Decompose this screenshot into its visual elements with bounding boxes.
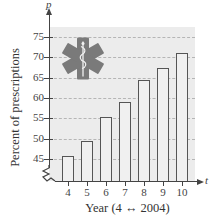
x-axis-variable: t [205,174,208,186]
bar-6 [100,117,112,181]
y-tick-label: 65 [24,72,44,83]
x-tick-label: 9 [153,187,173,198]
y-axis-variable: p [46,0,52,10]
y-tick-label: 70 [24,51,44,62]
y-axis [49,12,50,168]
y-axis-label: Percent of prescriptions [8,43,23,173]
x-axis-arrow-icon [197,179,204,185]
y-tick-label: 45 [24,153,44,164]
y-tick-label: 75 [24,31,44,42]
y-tick-label: 50 [24,133,44,144]
x-tick-label: 7 [115,187,135,198]
x-axis-label: Year (4 ↔ 2004) [55,201,200,216]
x-tick-label: 4 [58,187,78,198]
x-tick-label: 8 [134,187,154,198]
star-of-life-icon [62,37,104,80]
bar-5 [81,141,93,181]
gridline [49,98,195,99]
bar-chart: 45505560657075 p t 45678910 Percent of p… [0,0,215,223]
bar-10 [176,53,188,181]
x-tick-label: 6 [96,187,116,198]
x-tick-label: 5 [77,187,97,198]
bar-9 [157,68,169,181]
x-tick-label: 10 [172,187,192,198]
x-axis [55,181,198,182]
bar-8 [138,80,150,181]
y-tick-label: 55 [24,112,44,123]
y-tick-label: 60 [24,92,44,103]
bar-7 [119,102,131,181]
bar-4 [62,156,74,181]
